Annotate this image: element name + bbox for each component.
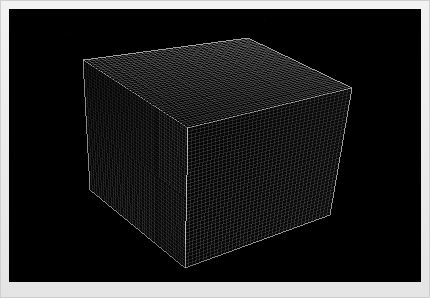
wireframe-cube-scene (9, 9, 421, 282)
render-frame (0, 0, 430, 298)
render-viewport[interactable] (9, 9, 421, 282)
